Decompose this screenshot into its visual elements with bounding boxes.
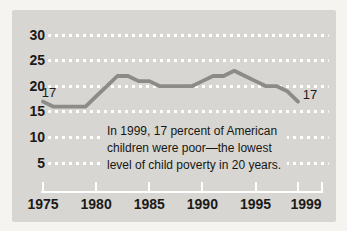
y-axis-label-15: 15	[14, 104, 45, 119]
figure: In 1999, 17 percent of American children…	[0, 0, 347, 231]
chart-panel: In 1999, 17 percent of American children…	[12, 10, 336, 222]
line-chart-svg	[12, 10, 336, 222]
y-axis-label-10: 10	[14, 130, 45, 145]
data-point-label-1999: 17	[303, 87, 317, 100]
data-point-label-1975: 17	[42, 86, 56, 99]
x-axis-label-1985: 1985	[134, 196, 165, 212]
y-axis-label-5: 5	[14, 156, 45, 171]
x-axis-label-1975: 1975	[27, 196, 58, 212]
y-axis-label-30: 30	[14, 28, 45, 43]
poverty-rate-line	[43, 71, 298, 107]
x-axis-label-1995: 1995	[240, 196, 271, 212]
x-axis-label-1980: 1980	[81, 196, 112, 212]
x-axis-label-1999: 1999	[290, 196, 321, 212]
y-axis-label-20: 20	[14, 79, 45, 94]
y-axis-label-25: 25	[14, 53, 45, 68]
x-axis-label-1990: 1990	[187, 196, 218, 212]
